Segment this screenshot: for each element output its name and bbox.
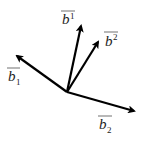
label-base: b: [99, 116, 107, 132]
label-base: b: [105, 33, 113, 49]
label-b-sup-1: b 1: [61, 11, 75, 27]
vector-diagram: b 1 b 1 b 2 b 2: [0, 0, 146, 142]
vector-b-sub-2: [67, 92, 134, 111]
label-subscript: 1: [16, 77, 21, 87]
vector-b-sub-1: [17, 56, 67, 92]
label-b-sub-2: b 2: [98, 116, 112, 135]
label-base: b: [8, 68, 16, 84]
label-superscript: 1: [70, 11, 75, 21]
label-subscript: 2: [107, 125, 112, 135]
label-superscript: 2: [113, 32, 118, 42]
label-b-sub-1: b 1: [7, 68, 21, 87]
label-base: b: [62, 11, 70, 27]
label-b-sup-2: b 2: [104, 32, 118, 49]
